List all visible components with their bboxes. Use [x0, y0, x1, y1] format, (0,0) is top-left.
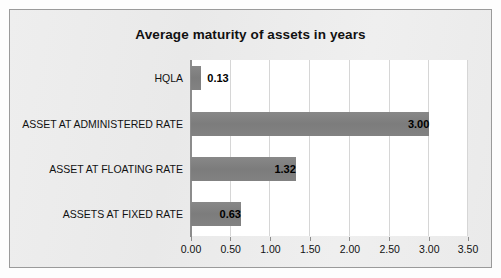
gridline-1.00	[269, 60, 270, 236]
tick-label-3.50: 3.50	[448, 243, 488, 255]
bar-value-assets-at-fixed-rate: 0.63	[191, 202, 248, 226]
gridline-3.00	[428, 60, 429, 236]
bar-value-asset-at-administered-rate: 3.00	[191, 112, 436, 136]
tick-label-3.00: 3.00	[409, 243, 449, 255]
category-label-asset-at-administered-rate: ASSET AT ADMINISTERED RATE	[10, 112, 190, 136]
tick-mark-0.00	[191, 237, 192, 241]
bar-hqla	[191, 66, 201, 90]
tick-label-1.50: 1.50	[290, 243, 330, 255]
bar-value-hqla: 0.13	[201, 66, 228, 90]
tick-mark-3.00	[429, 237, 430, 241]
gridline-1.50	[309, 60, 310, 236]
category-label-assets-at-fixed-rate: ASSETS AT FIXED RATE	[10, 202, 190, 226]
tick-label-2.00: 2.00	[330, 243, 370, 255]
tick-label-2.50: 2.50	[370, 243, 410, 255]
tick-mark-2.50	[389, 237, 390, 241]
bar-value-asset-at-floating-rate: 1.32	[191, 157, 303, 181]
tick-mark-3.50	[468, 237, 469, 241]
category-label-hqla: HQLA	[10, 66, 190, 90]
tick-label-0.50: 0.50	[211, 243, 251, 255]
tick-label-0.00: 0.00	[171, 243, 211, 255]
tick-mark-0.50	[230, 237, 231, 241]
gridline-2.50	[389, 60, 390, 236]
tick-mark-1.50	[310, 237, 311, 241]
chart-screenshot: Average maturity of assets in years 0.13…	[0, 0, 501, 278]
gridline-2.00	[349, 60, 350, 236]
tick-mark-2.00	[349, 237, 350, 241]
tick-mark-1.00	[270, 237, 271, 241]
gridline-3.50	[467, 60, 468, 236]
chart-title: Average maturity of assets in years	[9, 27, 492, 42]
tick-label-1.00: 1.00	[250, 243, 290, 255]
category-label-asset-at-floating-rate: ASSET AT FLOATING RATE	[10, 157, 190, 181]
